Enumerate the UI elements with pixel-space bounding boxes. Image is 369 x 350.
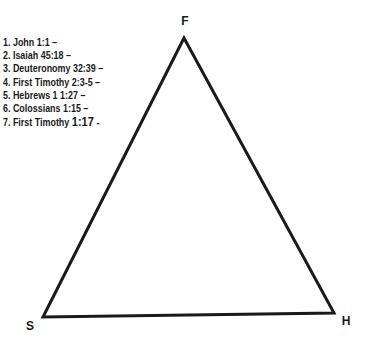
reference-verse: 1:17	[72, 114, 94, 129]
reference-item: 5. Hebrews 1 1:27 –	[3, 89, 103, 102]
vertex-label-top: F	[181, 14, 188, 28]
reference-item: 2. Isaiah 45:18 –	[3, 49, 103, 62]
reference-item: 1. John 1:1 –	[3, 36, 103, 49]
vertex-label-bottom-right: H	[342, 314, 351, 328]
vertex-label-bottom-left: S	[26, 319, 34, 333]
reference-list: 1. John 1:1 – 2. Isaiah 45:18 – 3. Deute…	[3, 36, 103, 129]
reference-item: 7. First Timothy 1:17 -	[3, 115, 103, 129]
reference-prefix: 7. First Timothy	[3, 116, 72, 128]
reference-item: 4. First Timothy 2:3-5 –	[3, 76, 103, 89]
reference-item: 3. Deuteronomy 32:39 –	[3, 62, 103, 75]
reference-suffix: -	[94, 116, 99, 128]
